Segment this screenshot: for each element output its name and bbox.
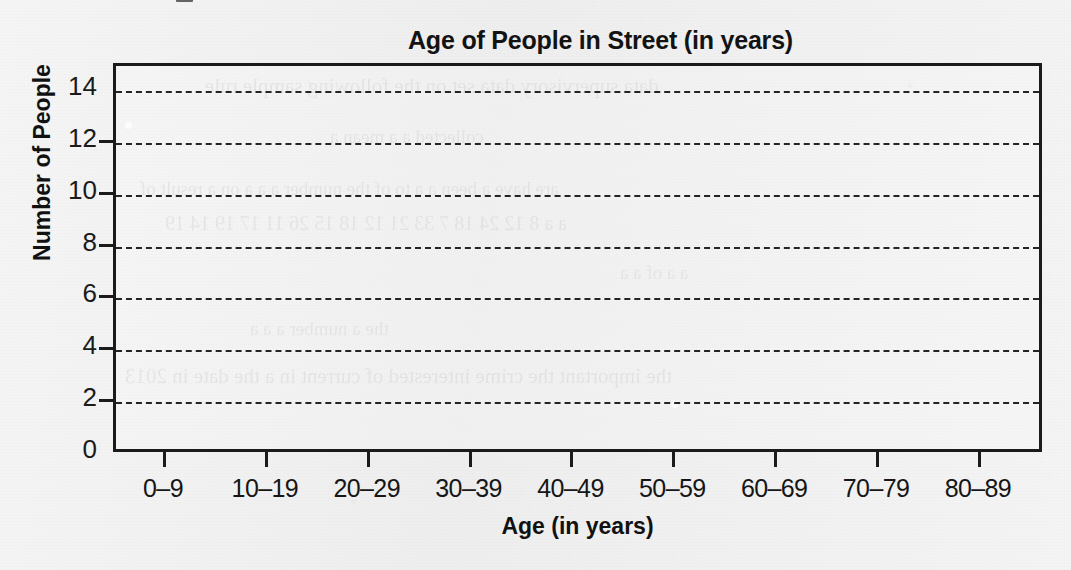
x-axis-tick-mark — [876, 452, 879, 467]
x-axis-tick-mark — [367, 452, 370, 467]
bar-chart-figure: Age of People in Street (in years) Numbe… — [0, 0, 1071, 570]
y-axis-tick-label: 6 — [35, 278, 97, 309]
y-axis-tick-label: 10 — [35, 175, 97, 206]
y-axis-tick-label: 8 — [35, 227, 97, 258]
y-axis-tick-mark — [99, 140, 113, 143]
x-axis-tick-mark — [978, 452, 981, 467]
y-axis-tick-mark — [99, 192, 113, 195]
x-axis-tick-mark — [672, 452, 675, 467]
x-axis-tick-mark — [265, 452, 268, 467]
y-axis-tick-label: 14 — [35, 71, 97, 102]
bars-layer — [116, 66, 1039, 449]
y-axis-tick-label: 2 — [35, 382, 97, 413]
plot-area — [113, 63, 1042, 452]
x-axis-tick-mark — [163, 452, 166, 467]
chart-title: Age of People in Street (in years) — [0, 26, 1071, 55]
x-axis-tick-mark — [774, 452, 777, 467]
scanned-worksheet-page: data supervisory data set on the followi… — [0, 0, 1071, 570]
y-axis-tick-mark — [99, 399, 113, 402]
y-axis-tick-label: 4 — [35, 330, 97, 361]
x-axis-tick-mark — [570, 452, 573, 467]
y-axis-tick-mark — [99, 295, 113, 298]
y-axis-tick-label: 12 — [35, 123, 97, 154]
x-axis-title: Age (in years) — [113, 513, 1042, 540]
y-axis-tick-label: 0 — [35, 434, 97, 465]
x-axis-tick-label: 80–89 — [908, 474, 1048, 503]
y-axis-tick-mark — [99, 347, 113, 350]
chart-title-text: Age of People in Street (in years) — [408, 26, 793, 54]
y-axis-tick-mark — [99, 244, 113, 247]
x-axis-tick-mark — [469, 452, 472, 467]
